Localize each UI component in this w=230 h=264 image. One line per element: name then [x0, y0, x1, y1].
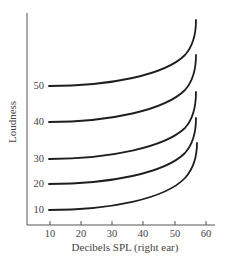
y-axis-label: Loudness [6, 92, 18, 152]
x-tick-label-20: 20 [71, 229, 91, 240]
x-tick-label-30: 30 [102, 229, 122, 240]
curve-loudness-40 [49, 55, 196, 122]
x-tick-label-40: 40 [133, 229, 153, 240]
x-tick-label-60: 60 [196, 229, 216, 240]
y-tick-label-10: 10 [24, 205, 44, 216]
curve-loudness-20 [49, 118, 196, 184]
curve-loudness-30 [49, 92, 196, 159]
x-tick-label-10: 10 [40, 229, 60, 240]
y-tick-label-40: 40 [24, 117, 44, 128]
y-tick-label-20: 20 [24, 179, 44, 190]
x-tick-label-50: 50 [165, 229, 185, 240]
y-tick-label-30: 30 [24, 154, 44, 165]
loudness-chart [0, 0, 230, 264]
x-axis-label: Decibels SPL (right ear) [20, 241, 230, 253]
curve-loudness-50 [49, 20, 196, 86]
x-ticks [50, 221, 206, 225]
y-tick-label-50: 50 [24, 81, 44, 92]
